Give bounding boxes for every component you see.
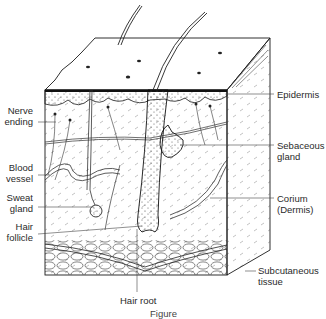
label-nerve-ending: Nerve ending (4, 105, 33, 127)
label-sebaceous-gland: Sebaceous gland (277, 140, 325, 162)
label-hair-follicle: Hair follicle (7, 221, 33, 243)
front-face (45, 90, 227, 275)
figure-caption: Figure (150, 308, 177, 319)
label-subcutaneous-tissue: Subcutaneous tissue (258, 265, 319, 287)
label-hair-root: Hair root (120, 295, 156, 306)
label-blood-vessel: Blood vessel (6, 162, 33, 184)
label-sweat-gland: Sweat gland (7, 192, 33, 214)
label-epidermis: Epidermis (277, 89, 319, 100)
label-corium: Corium (Dermis) (277, 193, 313, 215)
